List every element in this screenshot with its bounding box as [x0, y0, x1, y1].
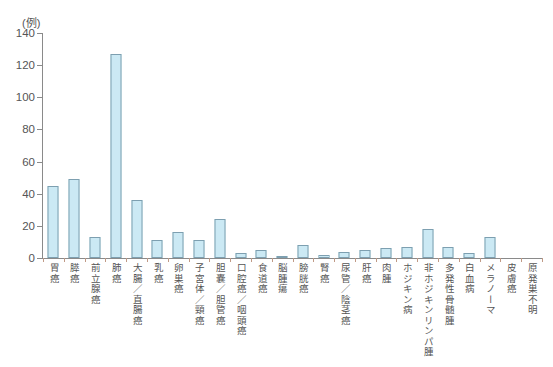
bar — [422, 229, 433, 258]
x-axis-tick-mark — [542, 258, 543, 262]
x-axis-tick-mark — [313, 258, 314, 262]
y-axis-tick-mark — [37, 226, 42, 227]
bar-slot — [500, 33, 521, 258]
bar-slot — [396, 33, 417, 258]
x-axis-tick-label: 膀胱癌 — [298, 263, 309, 295]
bar — [339, 252, 350, 258]
x-axis-tick-mark — [230, 258, 231, 262]
x-axis-tick-label: 口腔癌／咽頭癌 — [235, 263, 246, 337]
x-axis-tick-mark — [168, 258, 169, 262]
bar — [277, 256, 288, 258]
x-axis-tick-mark — [85, 258, 86, 262]
x-axis-tick-label: メラノーマ — [485, 263, 496, 316]
bar-slot — [293, 33, 314, 258]
bar — [48, 186, 59, 258]
x-axis-tick-mark — [355, 258, 356, 262]
bar-slot — [105, 33, 126, 258]
x-axis-tick-mark — [521, 258, 522, 262]
x-axis-tick-label: 原発巣不明 — [526, 263, 537, 316]
bar-slot — [126, 33, 147, 258]
x-axis-tick-mark — [480, 258, 481, 262]
bar — [110, 54, 121, 258]
x-axis-tick-mark — [417, 258, 418, 262]
y-axis-tick-label: 20 — [22, 220, 35, 232]
x-axis-tick-label: 腎癌 — [318, 263, 329, 284]
y-axis-tick-mark — [37, 162, 42, 163]
bar — [235, 253, 246, 258]
x-axis-tick-label: 皮膚癌 — [506, 263, 517, 295]
y-axis-tick-label: 60 — [22, 156, 35, 168]
bar-slot — [272, 33, 293, 258]
x-axis-tick-label: 肉腫 — [381, 263, 392, 284]
x-axis-tick-mark — [126, 258, 127, 262]
bar-slot — [334, 33, 355, 258]
bar — [443, 247, 454, 258]
x-axis-tick-mark — [293, 258, 294, 262]
bar-slot — [64, 33, 85, 258]
x-axis-tick-label: 肝癌 — [360, 263, 371, 284]
x-axis-tick-mark — [272, 258, 273, 262]
bar-slot — [313, 33, 334, 258]
x-axis-tick-mark — [147, 258, 148, 262]
x-axis-tick-mark — [438, 258, 439, 262]
x-axis-tick-label: 脳腫瘍 — [277, 263, 288, 295]
bar-slot — [376, 33, 397, 258]
x-axis-tick-mark — [334, 258, 335, 262]
bar — [256, 250, 267, 258]
x-axis-tick-mark — [105, 258, 106, 262]
bar — [193, 240, 204, 258]
x-axis-tick-mark — [209, 258, 210, 262]
bar-slot — [189, 33, 210, 258]
x-axis-tick-mark — [189, 258, 190, 262]
bar — [89, 237, 100, 258]
x-axis-tick-mark — [396, 258, 397, 262]
bar-slot — [85, 33, 106, 258]
y-axis-tick-label: 0 — [29, 252, 35, 264]
bar-slot — [438, 33, 459, 258]
x-axis-tick-label: 多発性骨髄腫 — [443, 263, 454, 326]
x-axis-tick-label: 前立腺癌 — [90, 263, 101, 305]
bar — [485, 237, 496, 258]
y-axis-tick-mark — [37, 258, 42, 259]
bar — [297, 245, 308, 258]
bar — [318, 255, 329, 258]
bar — [131, 200, 142, 258]
x-axis-tick-mark — [64, 258, 65, 262]
bar-slot — [43, 33, 64, 258]
bar-slot — [417, 33, 438, 258]
bar-slot — [521, 33, 542, 258]
bar — [401, 247, 412, 258]
x-axis-tick-mark — [459, 258, 460, 262]
y-axis-tick-mark — [37, 65, 42, 66]
y-axis-tick-label: 80 — [22, 123, 35, 135]
bar-slot — [168, 33, 189, 258]
x-axis-tick-label: 乳癌 — [152, 263, 163, 284]
x-axis-tick-mark — [376, 258, 377, 262]
x-axis-tick-label: 食道癌 — [256, 263, 267, 295]
x-axis-tick-label: 大腸／直腸癌 — [131, 263, 142, 326]
x-axis-tick-label: 子宮体／頸癌 — [194, 263, 205, 326]
y-axis-tick-label: 120 — [16, 59, 35, 71]
x-axis-tick-mark — [251, 258, 252, 262]
bar-slot — [480, 33, 501, 258]
x-axis-tick-label: ホジキン病 — [402, 263, 413, 316]
x-axis-tick-label: 肺癌 — [111, 263, 122, 284]
x-axis-tick-label: 非ホジキンリンパ腫 — [422, 263, 433, 358]
y-axis-tick-mark — [37, 129, 42, 130]
bar — [214, 219, 225, 258]
bar-slot — [251, 33, 272, 258]
x-axis-tick-mark — [500, 258, 501, 262]
y-axis-tick-mark — [37, 33, 42, 34]
x-axis-tick-label: 胆嚢／胆管癌 — [214, 263, 225, 326]
bar-slot — [459, 33, 480, 258]
x-axis-tick-label: 尿管／陰茎癌 — [339, 263, 350, 326]
bar-series — [43, 33, 542, 258]
bar — [152, 240, 163, 258]
x-axis-tick-label: 卵巣癌 — [173, 263, 184, 295]
x-axis-tick-label: 膵癌 — [69, 263, 80, 284]
x-axis-tick-mark — [43, 258, 44, 262]
x-axis-labels: 胃癌膵癌前立腺癌肺癌大腸／直腸癌乳癌卵巣癌子宮体／頸癌胆嚢／胆管癌口腔癌／咽頭癌… — [43, 263, 542, 363]
bar — [464, 253, 475, 258]
bar-slot — [147, 33, 168, 258]
bar-slot — [209, 33, 230, 258]
